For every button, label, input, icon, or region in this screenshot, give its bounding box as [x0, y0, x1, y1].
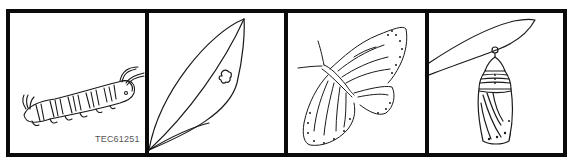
leaf-with-egg-icon: [149, 13, 284, 153]
life-cycle-strip: TEC61251: [6, 9, 567, 157]
panel-butterfly: [288, 13, 425, 153]
panel-chrysalis: [429, 13, 563, 153]
image-code-label: TEC61251: [95, 134, 140, 144]
chrysalis-icon: [429, 13, 563, 153]
butterfly-icon: [288, 13, 425, 153]
panel-caterpillar: TEC61251: [10, 13, 145, 153]
caterpillar-icon: [10, 13, 145, 153]
panel-leaf-egg: [149, 13, 284, 153]
